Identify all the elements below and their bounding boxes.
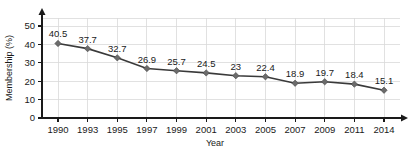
x-axis-arrow-icon xyxy=(401,115,408,122)
x-tick-label: 1995 xyxy=(107,124,128,135)
x-axis-title: Year xyxy=(206,138,224,148)
line-chart: 0102030405019901993199519971999200120032… xyxy=(0,0,412,154)
data-point-marker[interactable] xyxy=(351,81,357,87)
data-point-marker[interactable] xyxy=(84,45,90,51)
x-tick-label: 2003 xyxy=(225,124,246,135)
data-point-marker[interactable] xyxy=(203,70,209,76)
data-point-label: 25.7 xyxy=(167,56,186,67)
x-tick-label: 1993 xyxy=(77,124,98,135)
y-tick-label: 20 xyxy=(24,76,35,87)
x-tick-label: 2001 xyxy=(196,124,217,135)
x-tick-label: 2007 xyxy=(285,124,306,135)
y-tick-label: 40 xyxy=(24,39,35,50)
x-tick-label: 1997 xyxy=(136,124,157,135)
x-tick-label: 2014 xyxy=(373,124,394,135)
data-point-label: 18.9 xyxy=(286,68,305,79)
data-point-label: 15.1 xyxy=(375,75,394,86)
y-tick-label: 30 xyxy=(24,57,35,68)
data-point-label: 40.5 xyxy=(49,28,68,39)
data-point-label: 22.4 xyxy=(256,62,275,73)
data-point-label: 24.5 xyxy=(197,58,216,69)
series-line-membership xyxy=(58,43,384,90)
chart-canvas: 0102030405019901993199519971999200120032… xyxy=(0,0,412,154)
data-point-marker[interactable] xyxy=(144,65,150,71)
data-point-label: 18.4 xyxy=(345,69,364,80)
y-axis-title: Membership (%) xyxy=(4,35,14,101)
y-tick-label: 50 xyxy=(24,20,35,31)
data-point-label: 32.7 xyxy=(108,43,127,54)
data-point-marker[interactable] xyxy=(114,55,120,61)
x-tick-label: 1990 xyxy=(47,124,68,135)
x-tick-label: 2011 xyxy=(344,124,364,135)
data-point-marker[interactable] xyxy=(381,87,387,93)
x-tick-label: 1999 xyxy=(166,124,187,135)
x-tick-label: 2009 xyxy=(314,124,335,135)
data-point-marker[interactable] xyxy=(173,68,179,74)
data-point-label: 26.9 xyxy=(138,54,157,65)
data-point-marker[interactable] xyxy=(322,79,328,85)
y-tick-label: 0 xyxy=(30,112,35,123)
data-point-marker[interactable] xyxy=(233,72,239,78)
data-point-marker[interactable] xyxy=(55,40,61,46)
data-point-label: 19.7 xyxy=(315,67,334,78)
data-point-marker[interactable] xyxy=(262,74,268,80)
data-point-label: 37.7 xyxy=(78,34,97,45)
x-tick-label: 2005 xyxy=(255,124,276,135)
data-point-label: 23 xyxy=(231,61,242,72)
y-tick-label: 10 xyxy=(24,94,35,105)
y-axis-arrow-icon xyxy=(39,8,46,15)
